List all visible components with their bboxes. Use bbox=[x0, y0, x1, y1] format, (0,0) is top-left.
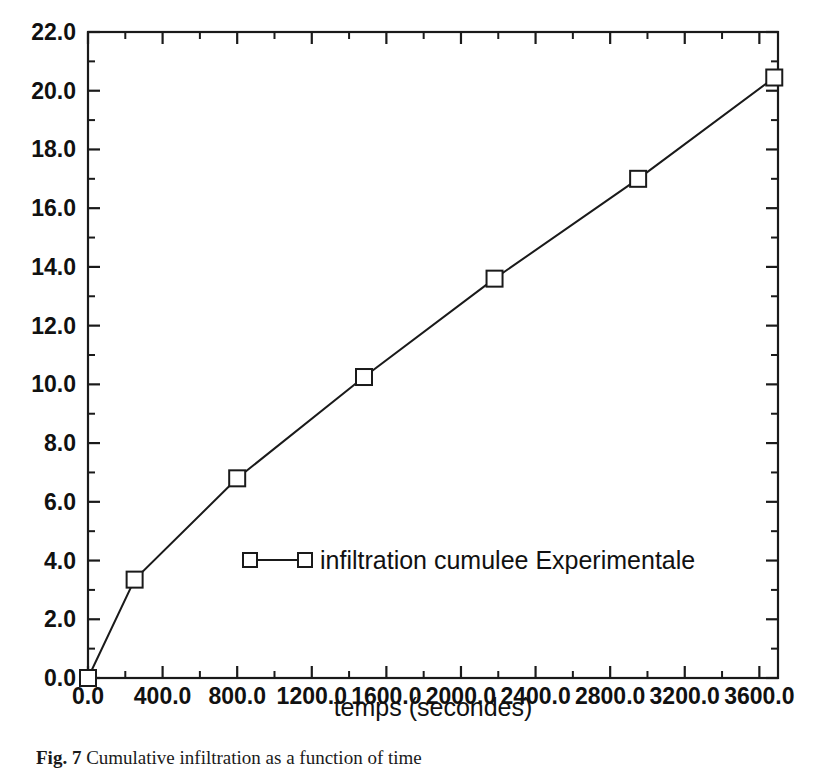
y-tick-label: 6.0 bbox=[44, 489, 76, 515]
y-tick-label: 14.0 bbox=[31, 254, 76, 280]
x-tick-label: 400.0 bbox=[134, 683, 192, 709]
figure-caption: Fig. 7 Cumulative infiltration as a func… bbox=[36, 747, 796, 769]
data-point-marker bbox=[229, 470, 245, 486]
y-tick-label: 10.0 bbox=[31, 371, 76, 397]
data-point-marker bbox=[127, 572, 143, 588]
x-tick-label: 3600.0 bbox=[724, 683, 794, 709]
legend-entry-label: infiltration cumulee Experimentale bbox=[320, 546, 695, 574]
data-point-marker bbox=[630, 171, 646, 187]
y-tick-label: 8.0 bbox=[44, 430, 76, 456]
y-tick-label: 2.0 bbox=[44, 606, 76, 632]
data-point-marker bbox=[80, 670, 96, 686]
legend-marker-left bbox=[243, 553, 257, 567]
x-tick-label: 3200.0 bbox=[650, 683, 720, 709]
figure-caption-text: Cumulative infiltration as a function of… bbox=[86, 747, 422, 768]
y-tick-label: 0.0 bbox=[44, 665, 76, 691]
x-tick-label: 800.0 bbox=[208, 683, 266, 709]
legend-marker-right bbox=[298, 553, 312, 567]
x-axis-title: temps (secondes) bbox=[334, 693, 533, 721]
y-tick-label: 22.0 bbox=[31, 19, 76, 45]
y-tick-label: 16.0 bbox=[31, 195, 76, 221]
data-point-marker bbox=[356, 369, 372, 385]
figure-caption-label: Fig. 7 bbox=[36, 747, 81, 768]
data-point-marker bbox=[766, 70, 782, 86]
y-tick-label: 20.0 bbox=[31, 78, 76, 104]
x-tick-label: 2800.0 bbox=[575, 683, 645, 709]
data-point-marker bbox=[487, 271, 503, 287]
y-tick-label: 18.0 bbox=[31, 136, 76, 162]
y-tick-label: 4.0 bbox=[44, 548, 76, 574]
y-tick-label: 12.0 bbox=[31, 313, 76, 339]
